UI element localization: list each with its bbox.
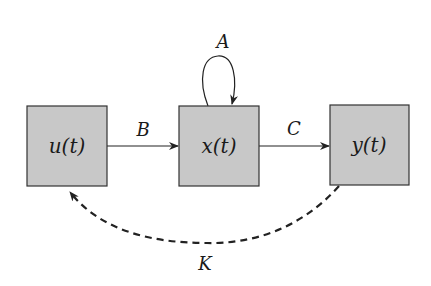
edge-label-a: A	[215, 31, 230, 52]
edge-label-c: C	[287, 118, 301, 139]
edge-x-self-loop: A	[203, 31, 235, 106]
edge-u-to-x: B	[107, 119, 178, 146]
edge-label-b: B	[135, 119, 149, 140]
node-x: x(t)	[179, 106, 259, 186]
node-y: y(t)	[330, 105, 409, 185]
node-label-u: u(t)	[49, 134, 86, 158]
diagram-svg: B A C K u(t) x(t) y(t)	[0, 0, 431, 286]
node-u: u(t)	[27, 106, 107, 186]
edge-x-to-y: C	[259, 118, 329, 146]
node-label-x: x(t)	[202, 134, 237, 158]
block-diagram: B A C K u(t) x(t) y(t)	[0, 0, 431, 286]
edge-y-to-u-feedback: K	[70, 186, 339, 274]
node-label-y: y(t)	[351, 133, 387, 157]
edge-label-k: K	[197, 253, 213, 274]
